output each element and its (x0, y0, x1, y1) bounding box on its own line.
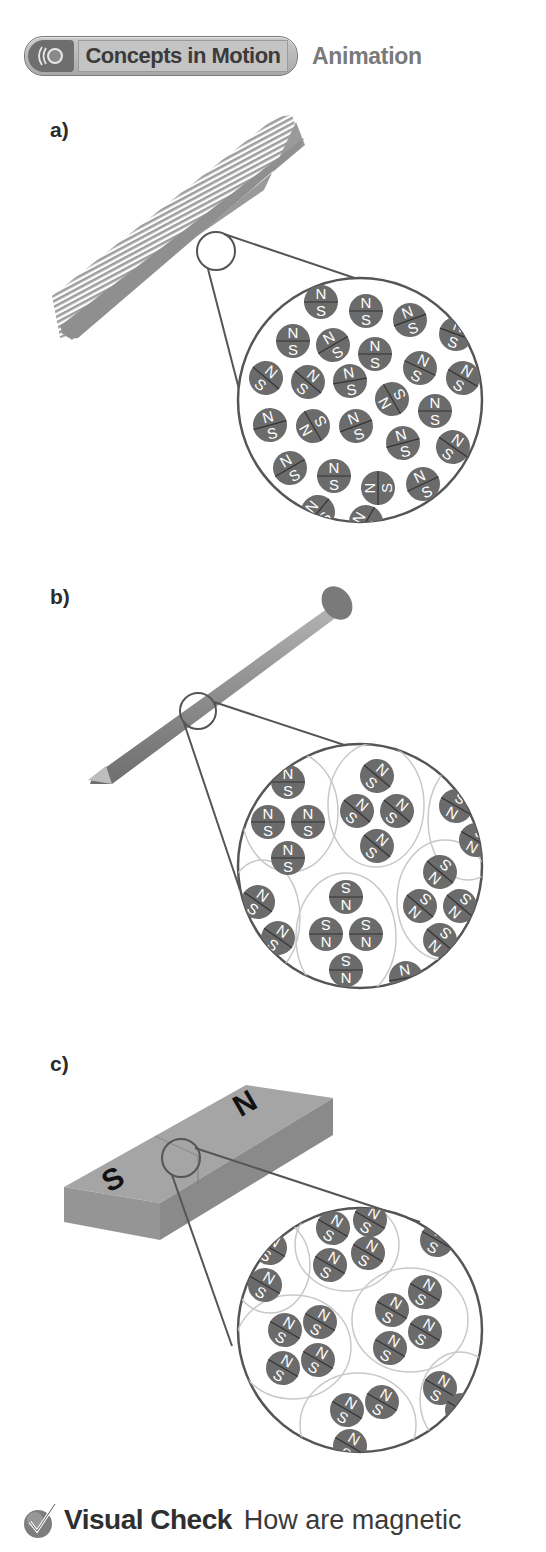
svg-text:N: N (263, 805, 274, 822)
svg-text:S: S (303, 822, 313, 839)
svg-text:N: N (361, 483, 378, 494)
comb-domain-figure: NS NS NS NS NS NS NS NS NS NS NS NS NS N… (0, 100, 546, 540)
animation-label: Animation (312, 43, 422, 70)
bar-magnet-icon: N S (64, 1083, 333, 1240)
svg-text:S: S (329, 476, 339, 493)
svg-text:N: N (283, 765, 294, 782)
comb-icon (52, 115, 305, 340)
concepts-in-motion-label: Concepts in Motion (78, 40, 288, 72)
svg-text:S: S (263, 822, 273, 839)
svg-text:N: N (321, 934, 332, 951)
svg-text:N: N (361, 294, 372, 311)
concepts-in-motion-button[interactable]: Concepts in Motion (24, 36, 298, 76)
svg-text:S: S (401, 977, 414, 995)
svg-text:N: N (288, 324, 299, 341)
svg-text:N: N (361, 934, 372, 951)
svg-text:N: N (283, 841, 294, 858)
nail-domain-figure: NS NS NS NS NS NS NS NS NS NS NS NS NS N… (0, 570, 546, 1010)
svg-text:S: S (321, 917, 331, 934)
checkmark-icon (22, 1500, 58, 1540)
svg-text:S: S (361, 311, 371, 328)
svg-text:S: S (283, 782, 293, 799)
svg-text:S: S (430, 411, 440, 428)
svg-text:N: N (370, 337, 381, 354)
svg-text:S: S (378, 483, 395, 493)
concepts-in-motion-header: Concepts in Motion Animation (24, 36, 422, 76)
svg-text:S: S (257, 1432, 274, 1452)
visual-check-title: Visual Check (64, 1504, 232, 1536)
svg-text:S: S (283, 858, 293, 875)
svg-text:S: S (370, 354, 380, 371)
svg-text:N: N (341, 970, 352, 987)
bar-magnet-domain-figure: N S NS NS NS NS NS NS NS NS NS NS NS NS … (0, 1030, 546, 1470)
svg-text:N: N (303, 805, 314, 822)
visual-check-question: How are magnetic (244, 1505, 462, 1536)
svg-text:S: S (361, 917, 371, 934)
svg-text:S: S (341, 953, 351, 970)
svg-text:N: N (341, 897, 352, 914)
svg-text:S: S (288, 341, 298, 358)
svg-text:S: S (316, 302, 326, 319)
motion-waves-icon (28, 40, 74, 72)
svg-text:S: S (341, 880, 351, 897)
visual-check: Visual Check How are magnetic (22, 1500, 461, 1540)
svg-text:N: N (265, 1418, 283, 1438)
svg-text:N: N (329, 459, 340, 476)
svg-text:N: N (430, 394, 441, 411)
svg-text:N: N (316, 285, 327, 302)
